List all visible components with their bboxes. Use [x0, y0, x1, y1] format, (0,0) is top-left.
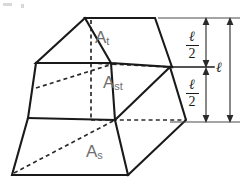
dimension-label-total: ℓ: [216, 61, 222, 75]
prismatoid-drawing: [0, 0, 247, 188]
mid-front-bottom-edge: [28, 118, 115, 120]
base-front-right-edge: [115, 120, 128, 175]
lower-half-denominator: 2: [184, 94, 200, 109]
figure-canvas: At Ast As ℓ 2 ℓ 2 ℓ: [0, 0, 247, 188]
base-face-outline: [12, 118, 128, 175]
arrow-lower-half-top: [203, 67, 210, 75]
mid-right-to-base-edge: [115, 67, 170, 120]
label-top-area: At: [95, 29, 109, 46]
lower-right-face: [128, 67, 186, 175]
lower-half-numerator: ℓ: [184, 78, 200, 93]
upper-half-numerator: ℓ: [184, 30, 200, 45]
label-base-area: As: [86, 143, 103, 160]
label-base-area-base: A: [86, 142, 97, 161]
label-mid-area-base: A: [103, 73, 114, 92]
label-top-area-sub: t: [106, 35, 109, 47]
dimension-label-upper-half: ℓ 2: [184, 30, 200, 61]
upper-half-denominator: 2: [184, 46, 200, 61]
label-mid-area: Ast: [103, 74, 123, 91]
label-top-area-base: A: [95, 28, 106, 47]
dimension-label-lower-half: ℓ 2: [184, 78, 200, 109]
label-mid-area-sub: st: [114, 80, 122, 92]
label-base-area-sub: s: [97, 149, 102, 161]
mid-left-face: [28, 63, 36, 118]
